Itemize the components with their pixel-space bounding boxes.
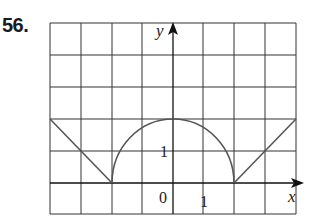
y-tick-1: 1 — [160, 143, 168, 160]
x-axis-label: x — [287, 187, 296, 206]
graph: y x 0 1 1 — [0, 0, 320, 224]
origin-label: 0 — [159, 189, 167, 206]
x-tick-1: 1 — [200, 193, 208, 210]
y-axis-label: y — [154, 21, 164, 40]
